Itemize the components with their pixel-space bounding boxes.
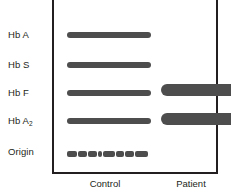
row-label-hb-a-text: Hb A <box>8 29 29 40</box>
row-label-origin: Origin <box>8 147 52 157</box>
band-segment <box>98 151 102 157</box>
band-control-hb-a2 <box>67 118 151 124</box>
row-label-hb-s: Hb S <box>8 60 52 70</box>
row-label-hb-a: Hb A <box>8 30 52 40</box>
band-control-origin <box>67 150 151 157</box>
row-label-hb-s-text: Hb S <box>8 59 30 70</box>
band-segment <box>67 151 77 157</box>
row-label-hb-f-text: Hb F <box>8 87 29 98</box>
band-patient-hb-f <box>161 84 231 96</box>
electrophoresis-figure: Hb A Hb S Hb F Hb A2 Origin <box>0 0 231 195</box>
row-label-hb-a2-subscript: 2 <box>29 120 33 127</box>
band-patient-hb-a2 <box>161 113 231 125</box>
row-label-hb-a2-text: Hb A <box>8 115 29 126</box>
band-control-hb-f <box>67 90 151 96</box>
row-label-hb-f: Hb F <box>8 88 52 98</box>
band-segment <box>116 151 124 157</box>
gel-box <box>52 0 218 174</box>
band-segment <box>125 151 134 157</box>
band-segment <box>103 151 115 157</box>
lane-caption-patient: Patient <box>152 178 230 189</box>
row-label-hb-a2: Hb A2 <box>8 116 52 126</box>
band-segment <box>135 151 148 157</box>
lane-caption-control: Control <box>62 178 148 189</box>
band-segment <box>78 151 87 157</box>
row-label-origin-text: Origin <box>8 146 34 157</box>
band-control-hb-s <box>67 62 151 68</box>
band-segment <box>88 151 97 157</box>
band-control-hb-a <box>67 32 151 38</box>
